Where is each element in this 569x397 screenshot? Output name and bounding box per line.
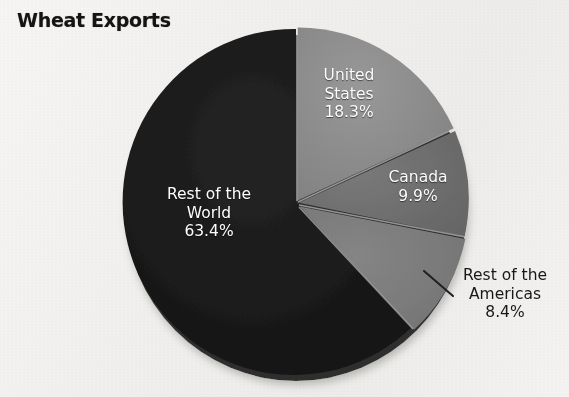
slice-label-rest-of-the-americas: Rest of the Americas 8.4% (446, 266, 564, 322)
chart-page: Wheat Exports (0, 0, 569, 397)
pie-slices (123, 27, 469, 375)
slice-label-rest-of-the-americas-line2: Americas (469, 285, 541, 303)
pie-chart: United States 18.3% Canada 9.9% Rest of … (0, 0, 569, 397)
slice-value-rest-of-the-americas: 8.4% (446, 303, 564, 322)
pie-chart-svg (0, 0, 569, 397)
slice-label-rest-of-the-americas-line1: Rest of the (463, 266, 547, 284)
